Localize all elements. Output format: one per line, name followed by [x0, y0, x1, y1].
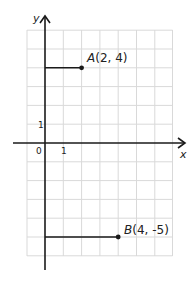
- point-b-coords: (4, -5): [132, 223, 169, 237]
- point-a-label: A(2, 4): [86, 51, 127, 65]
- point-b-label: B(4, -5): [124, 223, 169, 237]
- y-axis-label: y: [32, 12, 40, 25]
- point-b: [116, 235, 121, 240]
- coordinate-plane: y x 0 1 1 A(2, 4) B(4, -5): [0, 0, 196, 281]
- point-b-name: B: [124, 223, 132, 237]
- point-a: [79, 65, 84, 70]
- x-axis-label: x: [179, 148, 187, 161]
- y-unit-label: 1: [38, 120, 44, 130]
- point-a-coords: (2, 4): [95, 51, 127, 65]
- origin-label: 0: [36, 146, 42, 156]
- point-a-name: A: [86, 51, 95, 65]
- x-unit-label: 1: [61, 146, 67, 156]
